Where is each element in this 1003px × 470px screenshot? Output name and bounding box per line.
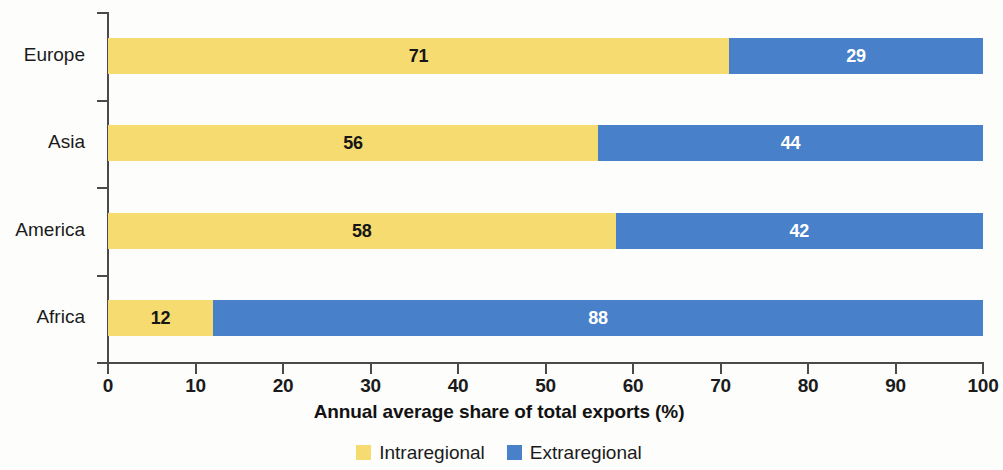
legend-label: Extraregional xyxy=(530,443,642,462)
y-axis-tick-label: Asia xyxy=(0,131,97,153)
x-axis-tick xyxy=(720,364,722,374)
bar-row: 1288 xyxy=(108,300,983,336)
x-axis-tick xyxy=(632,364,634,374)
x-axis-tick xyxy=(982,364,984,374)
x-axis-tick xyxy=(807,364,809,374)
y-axis-tick-label: Africa xyxy=(0,306,97,328)
legend-item: Intraregional xyxy=(356,443,485,462)
bar-value-label: 88 xyxy=(588,309,608,327)
x-axis-tick xyxy=(370,364,372,374)
x-axis-title: Annual average share of total exports (%… xyxy=(0,401,998,423)
legend-item: Extraregional xyxy=(507,443,642,462)
bar-row: 5644 xyxy=(108,125,983,161)
legend-swatch-icon xyxy=(356,445,371,460)
bar-value-label: 29 xyxy=(846,47,866,65)
legend-label: Intraregional xyxy=(379,443,485,462)
bar-value-label: 56 xyxy=(343,134,363,152)
bar-segment-extraregional: 42 xyxy=(616,213,984,249)
bar-value-label: 58 xyxy=(352,222,372,240)
legend-swatch-icon xyxy=(507,445,522,460)
y-axis-tick-label: Europe xyxy=(0,44,97,66)
x-axis-tick xyxy=(895,364,897,374)
x-axis-tick-label: 30 xyxy=(341,375,401,397)
x-axis-tick-label: 0 xyxy=(78,375,138,397)
bar-value-label: 12 xyxy=(151,309,171,327)
x-axis-tick-label: 60 xyxy=(603,375,663,397)
x-axis-tick-label: 70 xyxy=(691,375,751,397)
bar-segment-extraregional: 29 xyxy=(729,38,983,74)
y-axis-tick-label: America xyxy=(0,219,97,241)
bar-segment-intraregional: 56 xyxy=(108,125,598,161)
y-axis-tick xyxy=(97,12,108,14)
bar-value-label: 71 xyxy=(409,47,429,65)
x-axis-tick xyxy=(195,364,197,374)
bar-value-label: 42 xyxy=(789,222,809,240)
x-axis-tick-label: 10 xyxy=(166,375,226,397)
x-axis-tick xyxy=(107,364,109,374)
x-axis-tick-label: 20 xyxy=(253,375,313,397)
bar-segment-extraregional: 88 xyxy=(213,300,983,336)
bar-segment-extraregional: 44 xyxy=(598,125,983,161)
bar-segment-intraregional: 58 xyxy=(108,213,616,249)
x-axis-tick-label: 100 xyxy=(953,375,1003,397)
x-axis-tick-label: 50 xyxy=(516,375,576,397)
x-axis-tick-label: 80 xyxy=(778,375,838,397)
y-axis-tick xyxy=(97,275,108,277)
y-axis-tick xyxy=(97,187,108,189)
x-axis-tick-label: 90 xyxy=(866,375,926,397)
bar-row: 7129 xyxy=(108,38,983,74)
bar-row: 5842 xyxy=(108,213,983,249)
bar-segment-intraregional: 71 xyxy=(108,38,729,74)
x-axis-tick xyxy=(282,364,284,374)
x-axis-tick-label: 40 xyxy=(428,375,488,397)
bar-segment-intraregional: 12 xyxy=(108,300,213,336)
bar-value-label: 44 xyxy=(781,134,801,152)
x-axis-tick xyxy=(545,364,547,374)
x-axis-tick xyxy=(457,364,459,374)
chart-legend: IntraregionalExtraregional xyxy=(0,443,998,462)
y-axis-tick xyxy=(97,100,108,102)
